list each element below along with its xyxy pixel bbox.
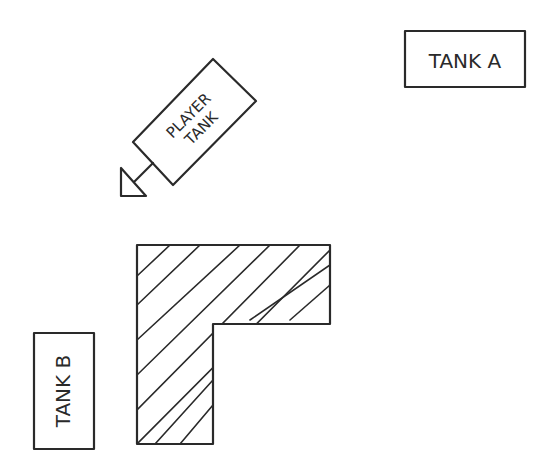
obstacle-hatching	[137, 245, 330, 444]
tank-a-label: TANK A	[428, 49, 502, 73]
player-tank-barrel	[134, 163, 153, 182]
tank-a: TANK A	[405, 31, 525, 87]
game-diagram: TANK A PLAYER TANK	[0, 0, 560, 476]
l-shaped-obstacle	[137, 245, 330, 444]
player-tank: PLAYER TANK	[121, 59, 256, 196]
tank-b: TANK B	[34, 333, 94, 449]
tank-b-label: TANK B	[51, 355, 75, 429]
